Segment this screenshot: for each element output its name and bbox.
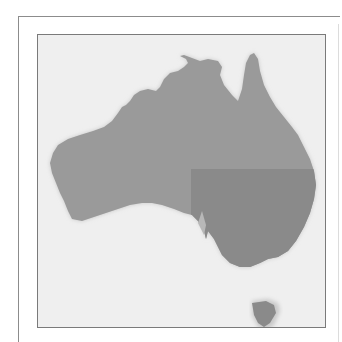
highlighted-region xyxy=(191,169,325,279)
page: Map of Australia xyxy=(0,0,342,342)
map-panel: Map of Australia xyxy=(37,34,326,328)
right-rule xyxy=(338,24,339,342)
australia-map xyxy=(38,35,325,327)
